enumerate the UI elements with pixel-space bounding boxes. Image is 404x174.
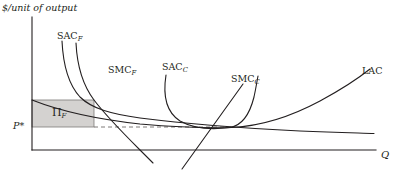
smc-f-text: SMC (108, 64, 132, 75)
sac-f-subscript: F (78, 35, 83, 43)
curve-label-smc-f: SMCF (108, 65, 136, 75)
sac-f-text: SAC (57, 30, 78, 41)
smc-f-subscript: F (132, 69, 137, 77)
curve-label-sac-c: SACC (162, 62, 188, 72)
sac-c-text: SAC (162, 61, 183, 72)
diagram-canvas (0, 0, 404, 174)
profit-subscript: F (62, 112, 67, 120)
curve-label-sac-f: SACF (57, 31, 82, 41)
curve-label-smc-c: SMCC (231, 74, 260, 84)
x-axis-title: Q (381, 150, 389, 160)
profit-symbol: Π (52, 106, 62, 119)
y-axis-title: $/unit of output (2, 3, 77, 13)
smc-c-subscript: C (255, 78, 260, 86)
smc-c-text: SMC (231, 73, 255, 84)
sac-c-subscript: C (183, 66, 188, 74)
profit-label: ΠF (52, 107, 66, 118)
price-tick-label: P* (13, 121, 24, 131)
curve-label-lac: LAC (362, 66, 382, 76)
cost-curve-diagram: $/unit of output P* Q ΠF SACF SMCF SACC … (0, 0, 404, 174)
